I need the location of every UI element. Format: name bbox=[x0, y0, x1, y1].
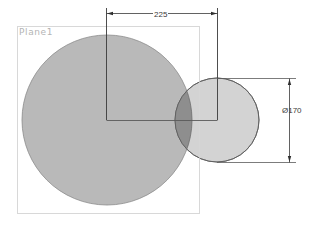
plane-label: Plane1 bbox=[19, 27, 53, 37]
large-circle[interactable] bbox=[22, 35, 192, 205]
distance-dimension-value[interactable]: 225 bbox=[153, 10, 168, 19]
arrow-down-icon bbox=[288, 156, 291, 162]
arrow-left-icon bbox=[107, 12, 113, 15]
arrow-up-icon bbox=[288, 79, 291, 85]
arrow-right-icon bbox=[211, 12, 217, 15]
diameter-dimension-value[interactable]: Ø170 bbox=[281, 106, 303, 115]
